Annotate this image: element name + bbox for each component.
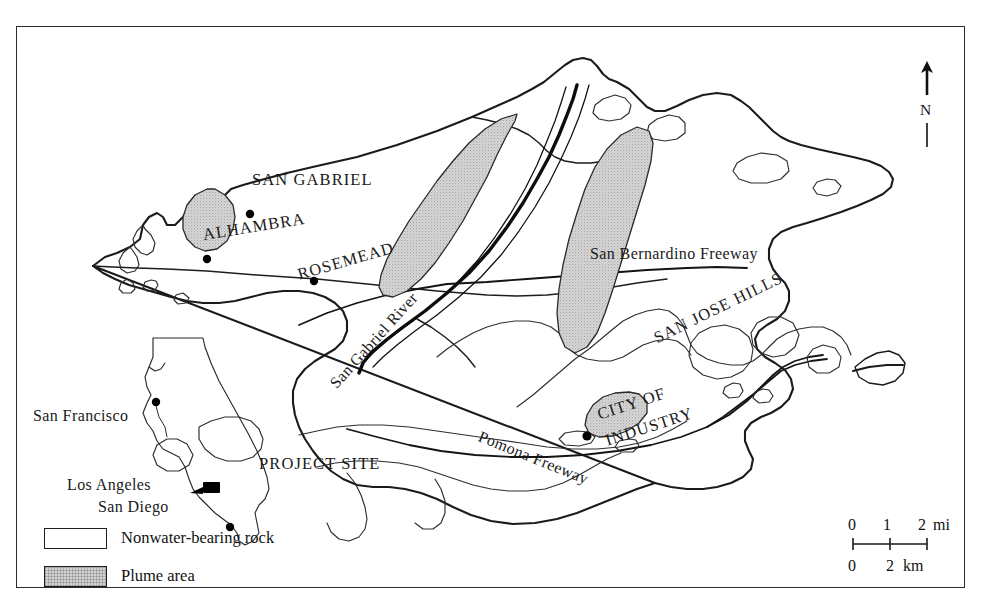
scale-bar-miles-labels: 0 1 2 mi bbox=[848, 514, 965, 535]
map-frame: SAN GABRIEL ALHAMBRA ROSEMEAD San Gabrie… bbox=[16, 26, 965, 588]
compass-rose: N bbox=[914, 61, 940, 149]
scale-tick-mi-1: 1 bbox=[883, 514, 891, 535]
project-site-marker bbox=[203, 482, 220, 493]
compass-north-label: N bbox=[920, 101, 932, 119]
san-francisco-leader bbox=[156, 406, 167, 437]
legend-label-nonwater-bearing-rock: Nonwater-bearing rock bbox=[121, 528, 274, 548]
scale-tick-mi-0: 0 bbox=[848, 514, 856, 535]
label-project-site: PROJECT SITE bbox=[259, 454, 381, 474]
coastline-detail-northwest bbox=[133, 225, 155, 255]
scale-tick-km-2: 2 bbox=[886, 555, 894, 576]
south-finger bbox=[327, 473, 367, 541]
scale-bar-ruler bbox=[848, 535, 965, 551]
plume-area-central-west bbox=[379, 114, 517, 297]
city-of-industry-dot bbox=[582, 431, 591, 440]
scale-unit-mi: mi bbox=[933, 514, 950, 535]
label-los-angeles: Los Angeles bbox=[67, 476, 151, 494]
south-finger-2 bbox=[415, 479, 445, 529]
pomona-freeway-line bbox=[347, 355, 823, 457]
outcrop-north-4 bbox=[813, 179, 841, 196]
hill-lobe-east-1 bbox=[689, 325, 753, 379]
legend-label-plume-area: Plume area bbox=[121, 566, 195, 586]
legend-item-nonwater-bearing-rock: Nonwater-bearing rock bbox=[44, 523, 274, 553]
eastern-wedge-line bbox=[853, 365, 903, 371]
plume-area-central-east bbox=[557, 127, 653, 353]
outcrop-north-2 bbox=[647, 115, 685, 141]
label-san-diego: San Diego bbox=[98, 498, 169, 516]
scale-tick-km-0: 0 bbox=[848, 555, 856, 576]
legend-swatch-nonwater-bearing-rock bbox=[44, 528, 107, 549]
label-san-gabriel: SAN GABRIEL bbox=[252, 170, 373, 190]
scale-tick-mi-2: 2 bbox=[918, 514, 926, 535]
hill-lobe-small-2 bbox=[753, 389, 773, 403]
legend-swatch-plume-area bbox=[44, 566, 107, 587]
scale-bar: 0 1 2 mi 0 2 km bbox=[848, 514, 965, 576]
san-francisco-dot bbox=[152, 398, 160, 406]
scale-bar-kilometers-labels: 0 2 km bbox=[848, 555, 965, 576]
map-figure: SAN GABRIEL ALHAMBRA ROSEMEAD San Gabrie… bbox=[0, 0, 981, 609]
outcrop-north-1 bbox=[593, 95, 631, 121]
scale-unit-km: km bbox=[903, 555, 923, 576]
alhambra-dot bbox=[203, 255, 211, 263]
california-inset-coast-notch bbox=[149, 363, 165, 371]
hill-lobe-small-1 bbox=[723, 383, 743, 398]
hill-lobe-east-2 bbox=[751, 317, 799, 357]
outcrop-north-3 bbox=[733, 153, 789, 183]
label-san-francisco: San Francisco bbox=[33, 407, 128, 425]
river-tributary bbox=[417, 319, 475, 367]
legend-item-plume-area: Plume area bbox=[44, 561, 274, 588]
legend: Nonwater-bearing rock Plume area bbox=[44, 523, 274, 588]
project-site-pointer bbox=[190, 487, 203, 494]
southwest-hill-lobe bbox=[199, 417, 263, 461]
label-san-bernardino-freeway: San Bernardino Freeway bbox=[590, 245, 758, 263]
